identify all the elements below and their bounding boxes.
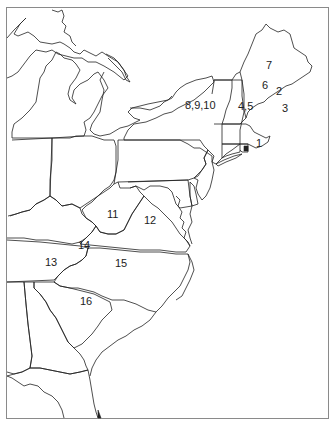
map-frame — [7, 8, 329, 419]
indiana-boundary — [10, 138, 52, 216]
map: 7 6 2 3 4,5 8,9,10 1 11 12 14 13 15 16 — [0, 0, 335, 424]
virginia-boundary — [80, 196, 190, 252]
map-labels: 7 6 2 3 4,5 8,9,10 1 11 12 14 13 15 16 — [45, 59, 288, 307]
new-jersey-boundary — [194, 150, 214, 200]
label-8-9-10: 8,9,10 — [185, 99, 216, 111]
label-13: 13 — [45, 256, 57, 268]
lake-superior-shore — [52, 10, 76, 46]
label-14: 14 — [78, 239, 90, 251]
label-1: 1 — [256, 137, 262, 149]
label-4-5: 4,5 — [238, 100, 253, 112]
outer-banks — [176, 254, 194, 300]
michigan-upper-peninsula — [7, 18, 128, 80]
ohio-boundary — [50, 136, 116, 208]
michigan-lower — [12, 52, 108, 138]
atlantic-coast-south — [90, 312, 156, 376]
cape-canaveral — [98, 410, 101, 418]
south-carolina-boundary — [34, 282, 112, 348]
label-7: 7 — [266, 59, 272, 71]
label-2: 2 — [276, 85, 282, 97]
label-12: 12 — [144, 214, 156, 226]
vermont-boundary — [214, 80, 232, 124]
pennsylvania-boundary — [114, 140, 208, 184]
label-3: 3 — [282, 102, 288, 114]
label-16: 16 — [80, 295, 92, 307]
new-york-boundary — [124, 80, 244, 164]
georgia-boundary — [24, 282, 88, 374]
maryland-boundary — [128, 180, 192, 208]
label-15: 15 — [115, 257, 127, 269]
kentucky-boundary — [7, 196, 96, 244]
label-6: 6 — [262, 79, 268, 91]
florida-boundary — [7, 368, 98, 418]
rhode-island-fill — [244, 146, 248, 151]
label-11: 11 — [107, 208, 118, 220]
alabama-boundary — [7, 282, 32, 376]
state-boundaries — [7, 10, 312, 418]
